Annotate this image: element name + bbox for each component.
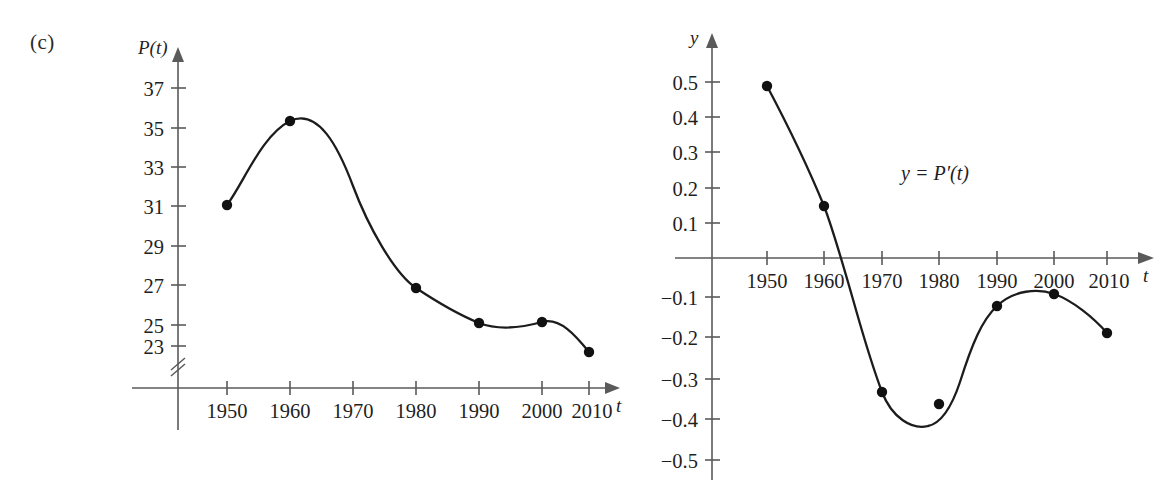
population-chart-svg: 37 35 33 31 29 27 25 23 1950 1960 1970 1… (0, 0, 640, 497)
y-axis-title: P(t) (137, 37, 168, 59)
data-point-1970 (877, 387, 887, 397)
data-points (222, 116, 594, 357)
x-axis (675, 252, 1154, 264)
x-tick-label-1980: 1980 (396, 400, 437, 422)
y-tick-label-37: 37 (144, 78, 165, 100)
y-tick-label-neg-0-2: −0.2 (661, 327, 698, 349)
derivative-chart-svg: 0.5 0.4 0.3 0.2 0.1 −0.1 −0.2 −0.3 −0.4 … (620, 0, 1169, 497)
x-tick-label-1970: 1970 (862, 270, 903, 292)
y-tick-label-27: 27 (144, 275, 165, 297)
derivative-chart: 0.5 0.4 0.3 0.2 0.1 −0.1 −0.2 −0.3 −0.4 … (620, 0, 1169, 497)
x-tick-label-1980: 1980 (919, 270, 960, 292)
x-tick-label-1990: 1990 (977, 270, 1018, 292)
x-tick-label-2010: 2010 (1089, 270, 1130, 292)
data-point-2000 (537, 317, 547, 327)
y-tick-label-neg-0-4: −0.4 (661, 409, 698, 431)
x-tick-label-1970: 1970 (333, 400, 374, 422)
x-tick-label-2000: 2000 (522, 400, 563, 422)
y-tick-label-neg-0-5: −0.5 (661, 450, 698, 472)
x-tick-label-1950: 1950 (207, 400, 248, 422)
x-tick-label-1960: 1960 (804, 270, 845, 292)
y-tick-label-0-2: 0.2 (672, 178, 698, 200)
x-tick-label-1960: 1960 (270, 400, 311, 422)
y-tick-label-23: 23 (144, 336, 165, 358)
y-tick-label-neg-0-1: −0.1 (661, 287, 698, 309)
x-tick-label-2000: 2000 (1034, 270, 1075, 292)
y-tick-label-25: 25 (144, 315, 165, 337)
data-point-1990 (474, 318, 484, 328)
x-tick-label-2010: 2010 (572, 400, 613, 422)
y-tick-label-33: 33 (144, 157, 165, 179)
population-chart: 37 35 33 31 29 27 25 23 1950 1960 1970 1… (0, 0, 640, 497)
data-point-1950 (222, 200, 232, 210)
y-tick-label-0-4: 0.4 (672, 107, 698, 129)
y-tick-label-0-5: 0.5 (672, 72, 698, 94)
y-tick-label-neg-0-3: −0.3 (661, 369, 698, 391)
y-axis (172, 47, 184, 430)
data-points (762, 81, 1112, 409)
data-point-1980 (934, 399, 944, 409)
y-tick-label-29: 29 (144, 236, 165, 258)
y-axis-title: y (688, 27, 699, 48)
data-point-1990 (992, 301, 1002, 311)
data-point-2000 (1049, 289, 1059, 299)
figure-container: (c) (0, 0, 1169, 497)
x-tick-label-1950: 1950 (747, 270, 788, 292)
data-point-1960 (285, 116, 295, 126)
curve-label: y = P′(t) (899, 162, 969, 185)
y-axis (706, 33, 718, 480)
data-point-1950 (762, 81, 772, 91)
derivative-curve (767, 86, 1107, 427)
data-point-1980 (411, 283, 421, 293)
data-point-2010 (584, 347, 594, 357)
y-tick-label-35: 35 (144, 118, 165, 140)
x-axis (132, 382, 620, 394)
y-tick-label-0-3: 0.3 (672, 142, 698, 164)
x-axis-title: t (1143, 265, 1149, 286)
y-tick-label-31: 31 (144, 196, 165, 218)
x-tick-label-1990: 1990 (459, 400, 500, 422)
data-point-1960 (819, 201, 829, 211)
y-tick-label-0-1: 0.1 (672, 213, 698, 235)
population-curve (227, 118, 589, 352)
data-point-2010 (1102, 328, 1112, 338)
